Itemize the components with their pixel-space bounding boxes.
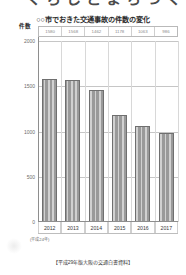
data-label-cell: 1462 <box>85 27 108 36</box>
source-caption: 【平成29年版大阪の交通白書資料】 <box>0 258 186 265</box>
data-label-cell: 986 <box>155 27 177 36</box>
column-separator <box>178 41 179 222</box>
y-tick-500: 500 <box>27 174 35 180</box>
plot-area <box>38 41 178 222</box>
bar-slot-2014 <box>85 41 108 222</box>
data-label-cell: 1580 <box>39 27 62 36</box>
y-axis-line <box>38 37 39 222</box>
data-label-cell: 1178 <box>109 27 132 36</box>
bar-2017[interactable] <box>159 133 174 222</box>
x-tick-2014: 2014 <box>85 222 108 233</box>
cut-off-heading: くらしとまちづくり <box>0 0 186 12</box>
cut-off-heading-text: くらしとまちづくり <box>26 0 186 8</box>
y-tick-1500: 1500 <box>24 83 35 89</box>
bar-2012[interactable] <box>42 79 57 222</box>
y-tick-2000: 2000 <box>24 38 35 44</box>
bar-slot-2015 <box>108 41 131 222</box>
x-tick-2012: 2012 <box>38 222 61 233</box>
era-year-note: (平成24年) <box>30 236 49 242</box>
y-tick-1000: 1000 <box>24 129 35 135</box>
x-axis-tick-labels: 2012 2013 2014 2015 2016 2017 <box>38 222 178 234</box>
x-tick-2017: 2017 <box>155 222 178 233</box>
bar-2016[interactable] <box>135 126 150 222</box>
bar-slot-2013 <box>61 41 84 222</box>
x-tick-2016: 2016 <box>131 222 154 233</box>
bar-2013[interactable] <box>65 80 80 222</box>
bar-2014[interactable] <box>89 90 104 222</box>
bar-series <box>38 41 178 222</box>
x-tick-2013: 2013 <box>61 222 84 233</box>
bar-slot-2012 <box>38 41 61 222</box>
y-tick-0: 0 <box>32 219 35 225</box>
bar-slot-2016 <box>131 41 154 222</box>
y-axis-unit-label: 件数 <box>19 22 31 30</box>
page-watermark <box>6 238 22 254</box>
data-label-cell: 1063 <box>132 27 155 36</box>
bar-2015[interactable] <box>112 115 127 222</box>
y-axis-tick-labels: 2000 1500 1000 500 0 <box>18 41 37 222</box>
x-tick-2015: 2015 <box>108 222 131 233</box>
data-label-strip: 1580 1568 1462 1178 1063 986 <box>38 26 178 37</box>
data-label-cell: 1568 <box>62 27 85 36</box>
bar-slot-2017 <box>155 41 178 222</box>
